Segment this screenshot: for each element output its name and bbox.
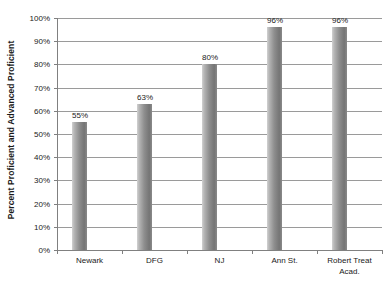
bars-layer: 55%63%80%96%96% xyxy=(58,18,382,250)
y-axis-tick-label: 80% xyxy=(34,60,50,69)
y-axis-title: Percent Proficient and Advanced Proficie… xyxy=(0,0,22,260)
x-axis-tick-label: Newark xyxy=(57,256,122,267)
bar[interactable] xyxy=(332,27,347,250)
x-axis-tick-label-line: Newark xyxy=(57,256,122,267)
plot-area: 55%63%80%96%96% xyxy=(57,18,382,250)
y-axis-tick-label: 0% xyxy=(38,246,50,255)
bar-slot: 80% xyxy=(188,18,253,250)
bar-data-label: 80% xyxy=(202,53,217,62)
bar-slot: 63% xyxy=(123,18,188,250)
y-axis-tick-label: 50% xyxy=(34,130,50,139)
y-axis-tick-labels: 0%10%20%30%40%50%60%70%80%90%100% xyxy=(22,18,54,250)
bar[interactable] xyxy=(202,64,217,250)
y-axis-title-text: Percent Proficient and Advanced Proficie… xyxy=(6,41,16,220)
y-axis-tick-label: 60% xyxy=(34,106,50,115)
bar[interactable] xyxy=(267,27,282,250)
bar-chart: Percent Proficient and Advanced Proficie… xyxy=(0,0,392,296)
x-axis-tick-label-line: Ann St. xyxy=(252,256,317,267)
x-axis-tick-mark xyxy=(122,250,123,254)
x-axis-tick-label-line: DFG xyxy=(122,256,187,267)
x-axis-tick-labels: NewarkDFGNJAnn St.Robert TreatAcad. xyxy=(57,256,382,292)
y-axis-tick-label: 30% xyxy=(34,176,50,185)
bar-data-label: 55% xyxy=(72,111,87,120)
x-axis-tick-label: Robert TreatAcad. xyxy=(317,256,382,277)
x-axis-tick-mark xyxy=(57,250,58,254)
bar-slot: 96% xyxy=(318,18,383,250)
bar-slot: 55% xyxy=(58,18,123,250)
bar[interactable] xyxy=(72,122,87,250)
y-axis-tick-label: 20% xyxy=(34,199,50,208)
y-axis-tick-label: 40% xyxy=(34,153,50,162)
x-axis-tick-mark xyxy=(382,250,383,254)
x-axis-tick-label-line: Acad. xyxy=(317,267,382,278)
x-axis-tick-label: Ann St. xyxy=(252,256,317,267)
bar-slot: 96% xyxy=(253,18,318,250)
bar[interactable] xyxy=(137,104,152,250)
x-axis-tick-mark xyxy=(317,250,318,254)
x-axis-tick-label-line: NJ xyxy=(187,256,252,267)
x-axis-tick-label: NJ xyxy=(187,256,252,267)
bar-data-label: 96% xyxy=(267,16,282,25)
x-axis-tick-label-line: Robert Treat xyxy=(317,256,382,267)
x-axis-tick-mark xyxy=(252,250,253,254)
y-axis-tick-label: 70% xyxy=(34,83,50,92)
bar-data-label: 96% xyxy=(332,16,347,25)
x-axis-tick-mark xyxy=(187,250,188,254)
y-axis-tick-label: 10% xyxy=(34,222,50,231)
bar-data-label: 63% xyxy=(137,93,152,102)
x-axis-line xyxy=(57,250,382,251)
y-axis-tick-label: 90% xyxy=(34,37,50,46)
y-axis-tick-label: 100% xyxy=(30,14,50,23)
x-axis-tick-label: DFG xyxy=(122,256,187,267)
